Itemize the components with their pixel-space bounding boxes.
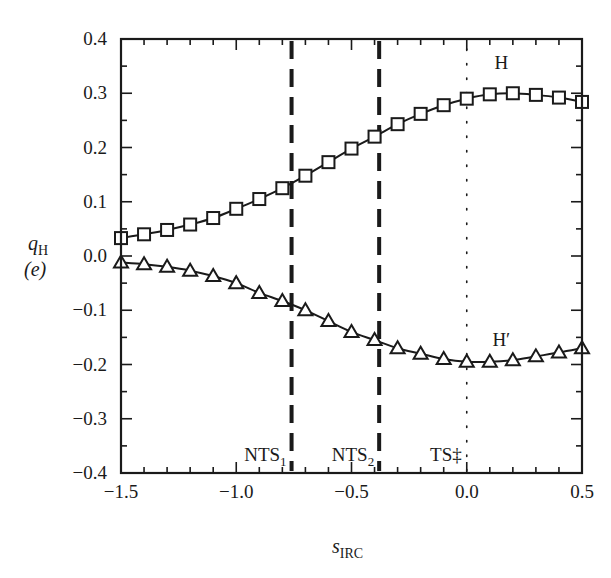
x-tick-label: −0.5 [334,481,368,502]
square-marker [184,219,196,231]
square-marker [438,99,450,111]
reference-line-label: NTS2 [332,444,374,469]
x-tick-label: 0.0 [455,481,479,502]
data-series [114,87,589,367]
reference-line-label: TS‡ [430,444,462,465]
x-tick-label: −1.0 [219,481,253,502]
plot-frame [121,39,582,473]
square-marker [507,87,519,99]
series-label: H [494,52,508,73]
x-tick-label: −1.5 [104,481,138,502]
triangle-marker [321,314,335,326]
series-label: H′ [492,329,510,350]
square-marker [253,193,265,205]
square-marker [299,170,311,182]
triangle-marker [345,325,359,337]
x-axis-ticks: −1.5−1.0−0.50.00.5 [104,39,594,502]
square-marker [230,203,242,215]
series-line-h-prime [121,263,582,363]
y-tick-label: 0.1 [83,191,107,212]
square-marker [461,93,473,105]
square-marker [415,108,427,120]
y-axis-ticks: 0.40.30.20.10.0−0.1−0.2−0.3−0.4 [73,28,582,483]
square-marker [369,131,381,143]
x-axis-label: sIRC [332,535,363,561]
y-tick-label: −0.1 [73,299,107,320]
square-marker [484,88,496,100]
square-marker [322,156,334,168]
y-tick-label: −0.4 [73,462,108,483]
series-line-h [121,93,582,238]
square-marker [553,92,565,104]
y-tick-label: −0.3 [73,408,107,429]
x-tick-label: 0.5 [570,481,594,502]
square-marker [138,228,150,240]
y-tick-label: 0.0 [83,245,107,266]
y-tick-label: 0.4 [83,28,107,49]
reference-lines: NTS1NTS2TS‡ [244,41,467,471]
y-axis-label: qH [28,232,48,258]
square-marker [346,143,358,155]
y-axis-unit: (e) [24,258,47,281]
square-marker [392,118,404,130]
y-tick-label: 0.2 [83,137,107,158]
square-marker [207,212,219,224]
square-marker [276,182,288,194]
chart: −1.5−1.0−0.50.00.5 0.40.30.20.10.0−0.1−0… [0,0,611,578]
y-tick-label: −0.2 [73,354,107,375]
square-marker [161,224,173,236]
y-tick-label: 0.3 [83,82,107,103]
reference-line-label: NTS1 [244,444,286,469]
square-marker [530,89,542,101]
